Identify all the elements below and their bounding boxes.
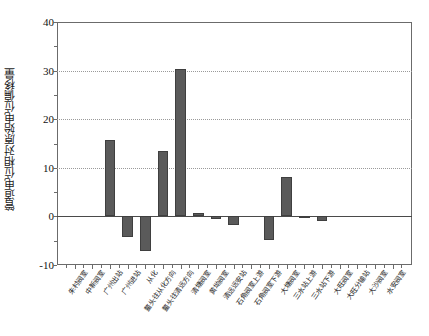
x-axis-tick-labels: 朱村阀室中新阀室广州出站广州进站从化鳌头往从化方向鳌头往清远方向清塘阀室黄坳阀室… [57,268,417,336]
plot-area [57,22,412,265]
axis-spine-left [57,22,58,265]
y-tick-label: -10 [39,259,54,271]
bar [281,177,292,217]
y-axis-label: 管道电位相对原始电位偏移量 [2,40,20,240]
bar [211,216,222,218]
y-tick-mark [53,216,57,217]
y-tick-mark [53,168,57,169]
y-tick-mark-minor [54,241,57,242]
gridline [57,71,412,72]
axis-spine-top [57,22,412,23]
bar [105,140,116,216]
gridline [57,119,412,120]
y-tick-mark [53,71,57,72]
bar [264,216,275,239]
y-tick-mark-minor [54,95,57,96]
bar [122,216,133,236]
y-tick-mark-minor [54,46,57,47]
y-tick-mark [53,119,57,120]
y-tick-mark-minor [54,192,57,193]
axis-spine-right [411,22,412,265]
y-axis-tick-labels: -10010203040 [20,0,54,336]
bar [193,213,204,216]
x-tick-label: 从化 [143,268,159,285]
bar [228,216,239,224]
bar [158,151,169,216]
y-tick-mark-minor [54,144,57,145]
y-tick-mark [53,22,57,23]
bar [299,216,310,218]
bar [140,216,151,251]
bar [175,69,186,217]
bar [317,216,328,220]
chart-figure: 管道电位相对原始电位偏移量 -10010203040 朱村阀室中新阀室广州出站广… [0,0,429,336]
y-tick-mark [53,265,57,266]
